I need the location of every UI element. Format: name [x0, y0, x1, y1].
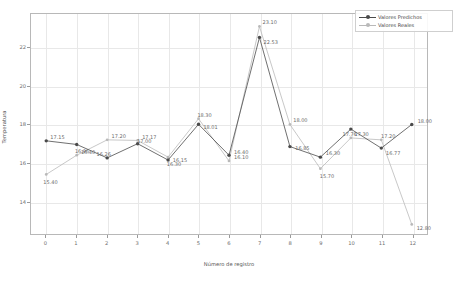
x-tick-mark — [45, 235, 46, 238]
data-point — [319, 155, 322, 158]
x-tick-mark — [351, 235, 352, 238]
data-point — [197, 123, 200, 126]
x-tick-mark — [290, 235, 291, 238]
data-point-label: 18.00 — [418, 118, 432, 124]
data-point — [45, 173, 48, 176]
data-point-label: 16.10 — [234, 154, 248, 160]
legend-item-predichos[interactable]: Valores Predichos — [359, 13, 449, 21]
data-point — [167, 156, 170, 159]
x-tick-label: 0 — [44, 240, 47, 246]
y-axis-label: Temperatura — [1, 111, 7, 144]
data-point — [380, 146, 383, 149]
data-point — [227, 154, 230, 157]
data-point-label: 16.26 — [97, 151, 111, 157]
series-line-predichos — [46, 37, 412, 160]
data-point-label: 16.30 — [326, 150, 340, 156]
x-tick-label: 1 — [74, 240, 77, 246]
data-point-label: 15.70 — [320, 173, 334, 179]
x-tick-label: 12 — [409, 240, 416, 246]
x-tick-label: 2 — [105, 240, 108, 246]
x-tick-label: 5 — [197, 240, 200, 246]
data-point-label: 17.17 — [142, 134, 156, 140]
x-tick-label: 6 — [227, 240, 230, 246]
data-point-label: 23.10 — [263, 19, 277, 25]
y-tick-label: 18 — [12, 121, 26, 127]
data-point — [288, 145, 291, 148]
chart-legend[interactable]: Valores Predichos Valores Reales — [355, 10, 453, 32]
data-point-label: 12.80 — [417, 225, 431, 231]
x-tick-mark — [413, 235, 414, 238]
data-point-label: 18.01 — [203, 124, 217, 130]
x-tick-mark — [76, 235, 77, 238]
data-point-label: 16.77 — [386, 150, 400, 156]
data-point-label: 16.85 — [295, 145, 309, 151]
data-point-label: 16.30 — [167, 161, 181, 167]
chart-figure: Temperatura Número de registro 141618202… — [0, 0, 457, 281]
data-point-label: 17.20 — [381, 133, 395, 139]
x-tick-label: 10 — [348, 240, 355, 246]
x-tick-label: 8 — [289, 240, 292, 246]
data-point-label: 18.30 — [197, 112, 211, 118]
legend-item-reales[interactable]: Valores Reales — [359, 21, 449, 29]
legend-label-predichos: Valores Predichos — [376, 14, 422, 20]
x-tick-label: 7 — [258, 240, 261, 246]
data-point-label: 18.00 — [293, 117, 307, 123]
x-tick-mark — [229, 235, 230, 238]
x-tick-mark — [382, 235, 383, 238]
y-tick-label: 14 — [12, 199, 26, 205]
data-point — [258, 25, 261, 28]
x-tick-label: 4 — [166, 240, 169, 246]
x-tick-mark — [260, 235, 261, 238]
y-tick-label: 16 — [12, 160, 26, 166]
data-point — [75, 143, 78, 146]
data-point-label: 15.40 — [43, 179, 57, 185]
data-point — [106, 138, 109, 141]
legend-marker-predichos-icon — [359, 13, 376, 21]
legend-marker-reales-icon — [359, 21, 376, 29]
x-tick-mark — [198, 235, 199, 238]
data-point-label: 17.15 — [50, 134, 64, 140]
data-point — [228, 160, 231, 163]
x-tick-mark — [137, 235, 138, 238]
series-layer — [31, 14, 427, 234]
x-tick-label: 9 — [319, 240, 322, 246]
plot-area: 17.1516.9616.2617.0016.1518.0116.4022.53… — [30, 13, 428, 235]
data-point — [319, 167, 322, 170]
data-point-label: 22.53 — [264, 39, 278, 45]
data-point — [289, 123, 292, 126]
data-point — [410, 123, 413, 126]
x-tick-label: 11 — [379, 240, 386, 246]
x-tick-mark — [321, 235, 322, 238]
y-tick-label: 20 — [12, 83, 26, 89]
y-tick-label: 22 — [12, 44, 26, 50]
legend-label-reales: Valores Reales — [376, 22, 414, 28]
data-point — [258, 36, 261, 39]
x-tick-label: 3 — [135, 240, 138, 246]
x-tick-mark — [168, 235, 169, 238]
data-point — [197, 117, 200, 120]
data-point-label: 17.30 — [354, 131, 368, 137]
x-axis-label: Número de registro — [204, 261, 254, 267]
data-point — [45, 139, 48, 142]
x-tick-mark — [107, 235, 108, 238]
data-point — [75, 154, 78, 157]
series-line-reales — [46, 26, 412, 224]
data-point-label: 16.40 — [81, 149, 95, 155]
data-point-label: 17.20 — [112, 133, 126, 139]
data-point — [410, 223, 413, 226]
